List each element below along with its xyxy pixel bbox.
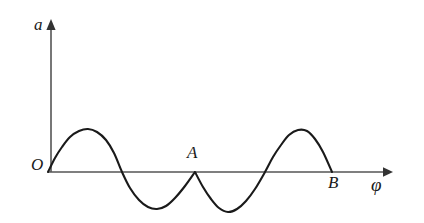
x-axis [48, 167, 393, 177]
x-axis-label: φ [371, 175, 382, 194]
point-b-label: B [328, 174, 338, 191]
point-a-label: A [187, 144, 197, 161]
x-axis-arrowhead-icon [383, 167, 393, 177]
waveform-curve [48, 129, 332, 212]
y-axis [46, 19, 55, 172]
physics-waveform-figure: a φ O A B [0, 0, 424, 223]
y-axis-arrowhead-icon [46, 19, 55, 30]
plot-canvas [0, 0, 424, 223]
origin-label: O [31, 156, 43, 173]
y-axis-label: a [34, 16, 43, 33]
